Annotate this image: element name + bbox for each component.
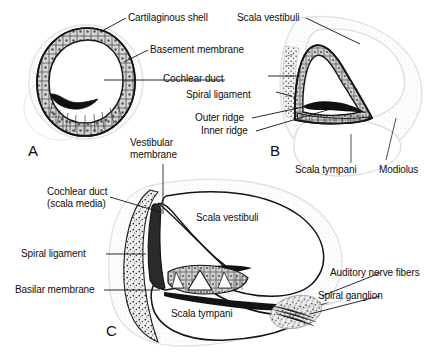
label-scala-vestibuli-c: Scala vestibuli: [196, 212, 258, 224]
label-outer-ridge: Outer ridge: [195, 112, 244, 124]
panel-c-artwork: [109, 179, 350, 346]
label-spiral-ligament: Spiral ligament: [186, 89, 251, 101]
label-scala-tympani-c: Scala tympani: [171, 308, 233, 320]
label-cochlear-duct: Cochlear duct: [163, 73, 223, 85]
label-vestibular-membrane-line2: membrane: [130, 149, 177, 161]
label-vestibular-membrane-line1: Vestibular: [130, 137, 173, 149]
label-spiral-ligament-c: Spiral ligament: [21, 248, 86, 260]
label-basilar-membrane-c: Basilar membrane: [15, 284, 95, 296]
panel-letter-b: B: [270, 142, 280, 159]
label-cochlear-duct-c-line1: Cochlear duct: [47, 186, 107, 198]
label-scala-vestibuli-b: Scala vestibuli: [237, 12, 299, 24]
panel-letter-c: C: [106, 322, 117, 339]
label-modiolus: Modiolus: [379, 164, 418, 176]
anatomy-figure: Cartilaginous shell Basement membrane Co…: [0, 0, 439, 363]
label-inner-ridge: Inner ridge: [201, 125, 248, 137]
label-spiral-ganglion: Spiral ganglion: [318, 290, 383, 302]
panel-letter-a: A: [28, 142, 38, 159]
label-basement-membrane: Basement membrane: [150, 44, 244, 56]
label-auditory-nerve-fibers: Auditory nerve fibers: [330, 267, 420, 279]
label-scala-tympani-b: Scala tympani: [295, 164, 357, 176]
panel-a-artwork: [24, 24, 144, 140]
label-cartilaginous-shell: Cartilaginous shell: [128, 12, 208, 24]
label-cochlear-duct-c-line2: (scala media): [47, 198, 106, 210]
